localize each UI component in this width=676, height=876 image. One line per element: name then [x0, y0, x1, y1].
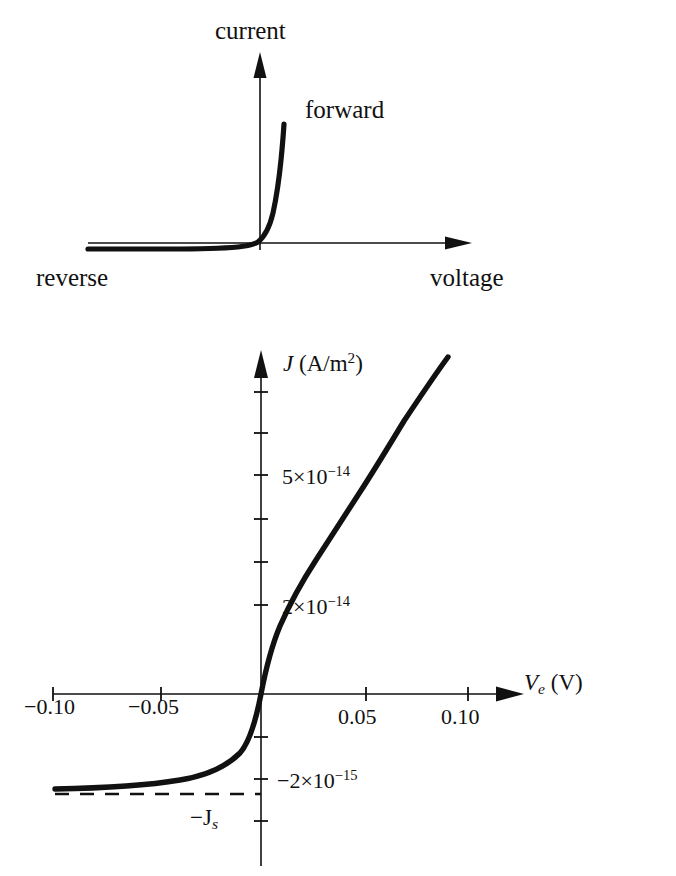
- y-axis-symbol: J: [283, 351, 293, 376]
- y-tick-exponent-3: −15: [335, 767, 358, 783]
- diode-iv-figure: current forward reverse voltage: [0, 0, 676, 876]
- schematic-diode-curve: [88, 124, 284, 249]
- x-axis-units: (V): [551, 670, 583, 695]
- schematic-forward-label: forward: [305, 97, 384, 122]
- x-tick-label-neg-0-10: −0.10: [24, 696, 75, 718]
- y-axis-units-exponent: 2: [348, 349, 356, 366]
- y-tick-exponent-2: −14: [327, 593, 350, 609]
- y-axis-arrowhead: [254, 350, 268, 378]
- schematic-x-axis-arrowhead: [445, 237, 472, 250]
- y-tick-exponent-1: −14: [327, 463, 350, 479]
- y-tick-label-neg-2e-15: −2×10−15: [277, 768, 358, 792]
- y-axis-units-close: ): [355, 351, 363, 376]
- x-axis-symbol: V: [524, 670, 538, 695]
- saturation-current-label: −Js: [190, 806, 218, 832]
- x-axis-title: Ve (V): [524, 671, 583, 697]
- schematic-y-axis-label: current: [215, 18, 286, 43]
- x-tick-label-neg-0-05: −0.05: [128, 696, 179, 718]
- schematic-reverse-label: reverse: [36, 265, 108, 290]
- y-tick-mantissa-1: 5×10: [282, 464, 327, 489]
- y-tick-label-5e-14: 5×10−14: [282, 464, 350, 488]
- schematic-diode-panel: current forward reverse voltage: [0, 0, 676, 310]
- schematic-x-axis-label: voltage: [430, 265, 504, 290]
- y-tick-label-2e-14: 2×10−14: [282, 594, 350, 618]
- x-tick-label-0-10: 0.10: [441, 706, 480, 728]
- y-tick-mantissa-2: 2×10: [282, 594, 327, 619]
- current-density-panel: J (A/m2) Ve (V) 5×10−14 2×10−14 −2×10−15…: [0, 310, 676, 876]
- x-tick-label-0-05: 0.05: [338, 706, 377, 728]
- x-axis-subscript: e: [538, 680, 545, 697]
- y-tick-mantissa-3: −2×10: [277, 768, 335, 793]
- current-density-curve: [55, 357, 448, 789]
- schematic-y-axis-arrowhead: [254, 52, 267, 78]
- x-axis-arrowhead: [496, 687, 524, 702]
- y-axis-units-open: (A/m: [299, 351, 348, 376]
- saturation-subscript: s: [212, 815, 218, 832]
- saturation-symbol: −J: [190, 805, 212, 830]
- y-axis-title: J (A/m2): [283, 350, 363, 375]
